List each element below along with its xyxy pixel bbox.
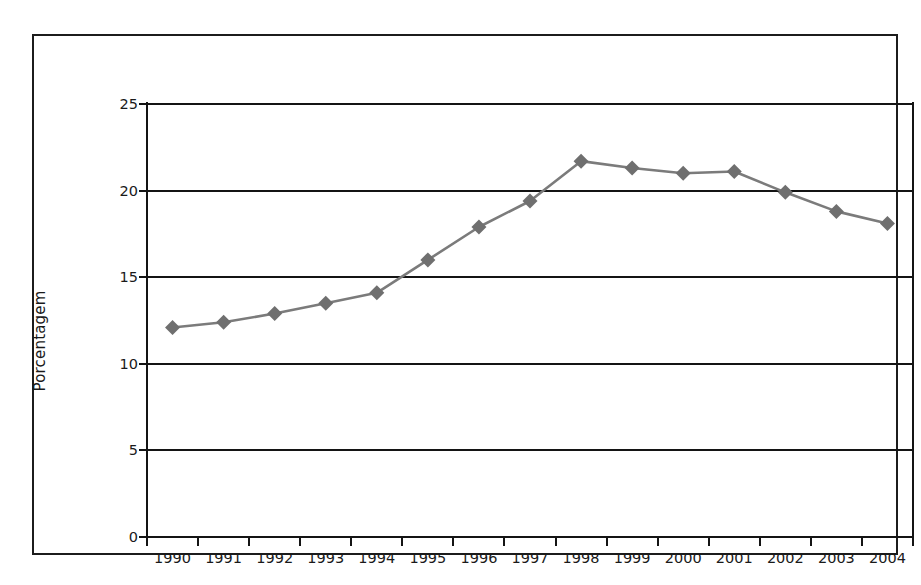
data-point-1996 — [471, 219, 486, 234]
x-tick-mark-3 — [299, 537, 301, 546]
y-tick-label-20: 20 — [120, 183, 138, 199]
y-tick-mark-25 — [139, 103, 147, 105]
data-point-1990 — [165, 320, 180, 335]
data-point-2000 — [676, 166, 691, 181]
x-tick-mark-7 — [503, 537, 505, 546]
x-tick-mark-13 — [810, 537, 812, 546]
y-tick-label-15: 15 — [120, 269, 138, 285]
series-markers — [165, 154, 895, 335]
data-point-1993 — [318, 296, 333, 311]
x-tick-label-1992: 1992 — [256, 550, 293, 566]
x-tick-mark-10 — [657, 537, 659, 546]
x-tick-mark-14 — [861, 537, 863, 546]
data-point-2002 — [778, 185, 793, 200]
x-tick-label-1996: 1996 — [460, 550, 497, 566]
y-tick-mark-10 — [139, 363, 147, 365]
data-point-1995 — [420, 252, 435, 267]
data-point-1999 — [625, 161, 640, 176]
x-tick-label-1990: 1990 — [154, 550, 191, 566]
x-tick-mark-0 — [146, 537, 148, 546]
x-tick-label-1998: 1998 — [563, 550, 600, 566]
y-tick-label-25: 25 — [120, 96, 138, 112]
x-tick-label-2002: 2002 — [767, 550, 804, 566]
x-tick-label-2001: 2001 — [716, 550, 753, 566]
data-point-2001 — [727, 164, 742, 179]
x-tick-mark-12 — [759, 537, 761, 546]
y-tick-mark-15 — [139, 276, 147, 278]
x-tick-label-2004: 2004 — [869, 550, 906, 566]
x-tick-label-1991: 1991 — [205, 550, 242, 566]
data-series-line — [147, 104, 913, 537]
y-tick-mark-5 — [139, 449, 147, 451]
x-tick-label-1995: 1995 — [409, 550, 446, 566]
data-point-1992 — [267, 306, 282, 321]
y-tick-label-5: 5 — [129, 442, 138, 458]
x-tick-mark-6 — [452, 537, 454, 546]
x-tick-mark-11 — [708, 537, 710, 546]
x-tick-mark-2 — [248, 537, 250, 546]
data-point-2003 — [829, 204, 844, 219]
x-tick-label-1993: 1993 — [307, 550, 344, 566]
x-tick-mark-15 — [912, 537, 914, 546]
data-point-1994 — [369, 285, 384, 300]
data-point-1991 — [216, 315, 231, 330]
x-tick-label-2000: 2000 — [665, 550, 702, 566]
x-tick-mark-4 — [350, 537, 352, 546]
x-tick-mark-1 — [197, 537, 199, 546]
x-tick-label-1999: 1999 — [614, 550, 651, 566]
data-point-2004 — [880, 216, 895, 231]
y-tick-label-10: 10 — [120, 356, 138, 372]
x-tick-label-1994: 1994 — [358, 550, 395, 566]
x-tick-label-1997: 1997 — [512, 550, 549, 566]
x-tick-mark-9 — [606, 537, 608, 546]
y-axis-title: Porcentagem — [31, 251, 49, 431]
chart-frame: Porcentagem 0510152025 19901991199219931… — [32, 34, 898, 555]
plot-area: 0510152025 19901991199219931994199519961… — [147, 104, 913, 537]
x-tick-label-2003: 2003 — [818, 550, 855, 566]
y-tick-label-0: 0 — [129, 529, 138, 545]
y-tick-mark-20 — [139, 190, 147, 192]
x-tick-mark-5 — [401, 537, 403, 546]
series-polyline — [173, 161, 888, 327]
x-tick-mark-8 — [555, 537, 557, 546]
figure: Porcentagem 0510152025 19901991199219931… — [0, 0, 921, 585]
